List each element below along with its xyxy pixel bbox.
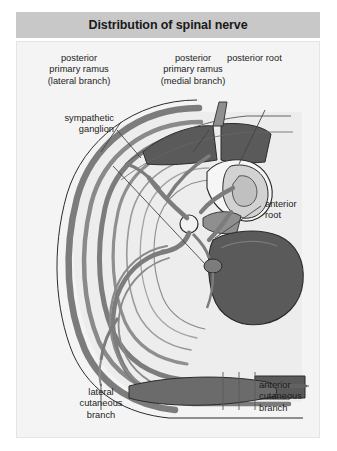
label-anterior-root: anterior root: [265, 199, 320, 222]
label-line: sympathetic: [17, 113, 114, 124]
label-anterior-cutaneous-branch: anterior cutaneous branch: [259, 380, 320, 414]
label-line: primary ramus: [141, 64, 245, 75]
label-line: lateral: [43, 387, 159, 398]
vertebral-body: [209, 231, 304, 325]
label-line: (lateral branch): [17, 76, 141, 87]
label-sympathetic-ganglion: sympathetic ganglion: [17, 113, 114, 136]
erector-spinae-muscle-right: [221, 123, 271, 162]
figure-root: Distribution of spinal nerve: [0, 0, 337, 451]
label-line: posterior: [17, 53, 141, 64]
label-line: branch: [43, 410, 159, 421]
label-line: (medial branch): [141, 76, 245, 87]
label-lateral-cutaneous-branch: lateral cutaneous branch: [43, 387, 159, 421]
label-posterior-root: posterior root: [227, 53, 320, 64]
diagram-panel: posterior primary ramus (lateral branch)…: [16, 41, 320, 438]
label-line: anterior: [265, 199, 320, 210]
label-line: anterior: [259, 380, 320, 391]
label-line: cutaneous: [259, 391, 320, 402]
page-title: Distribution of spinal nerve: [88, 18, 247, 32]
label-line: cutaneous: [43, 398, 159, 409]
label-line: ganglion: [17, 124, 114, 135]
label-line: branch: [259, 403, 320, 414]
label-line: posterior root: [227, 53, 320, 64]
figure-title-bar: Distribution of spinal nerve: [16, 12, 320, 38]
sympathetic-ganglion-shape: [204, 259, 222, 273]
label-line: root: [265, 210, 320, 221]
label-line: primary ramus: [17, 64, 141, 75]
spinal-nerve-illustration: [17, 42, 320, 438]
label-posterior-primary-ramus-lateral: posterior primary ramus (lateral branch): [17, 53, 141, 87]
